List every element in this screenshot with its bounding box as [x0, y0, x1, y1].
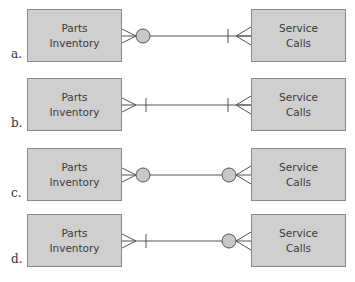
optional-circle-icon [222, 168, 236, 182]
entity-name-line2: Calls [286, 175, 311, 190]
entity-name-line1: Service [279, 21, 318, 36]
option-c: c. Parts Inventory Service Calls [0, 148, 355, 204]
option-a: a. Parts Inventory Service Calls [0, 9, 355, 65]
crows-foot-icon [122, 98, 136, 112]
crows-foot-icon [236, 232, 251, 250]
entity-service-calls: Service Calls [251, 78, 346, 131]
option-b: b. Parts Inventory Service Calls [0, 78, 355, 134]
crows-foot-icon [236, 27, 251, 45]
entity-name-line1: Service [279, 160, 318, 175]
crows-foot-icon [236, 96, 251, 114]
entity-name-line2: Calls [286, 36, 311, 51]
optional-circle-icon [136, 168, 150, 182]
crows-foot-icon [122, 234, 136, 248]
option-d: d. Parts Inventory Service Calls [0, 214, 355, 270]
entity-name-line1: Service [279, 226, 318, 241]
optional-circle-icon [222, 234, 236, 248]
entity-service-calls: Service Calls [251, 214, 346, 267]
crows-foot-icon [236, 166, 251, 184]
entity-name-line2: Calls [286, 241, 311, 256]
crows-foot-icon [122, 29, 136, 43]
entity-service-calls: Service Calls [251, 148, 346, 201]
entity-name-line1: Service [279, 90, 318, 105]
optional-circle-icon [136, 29, 150, 43]
entity-name-line2: Calls [286, 105, 311, 120]
entity-service-calls: Service Calls [251, 9, 346, 62]
crows-foot-icon [122, 168, 136, 182]
